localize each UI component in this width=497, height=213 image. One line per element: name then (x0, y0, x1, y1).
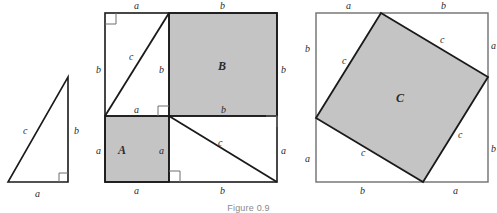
dissection-edge-top-left: a (134, 0, 139, 11)
figure-container: c b a A B a (0, 0, 497, 213)
tilted-edge-left-lower: a (305, 153, 310, 164)
tilted-edge-top-right: b (441, 0, 446, 11)
dissection-diagonal-lower (169, 116, 277, 182)
tilted-edge-top-left: a (346, 0, 351, 11)
dissection-edge-top-right: b (220, 0, 225, 11)
dissection-diagonal-label-lower: c (218, 137, 223, 148)
triangle-panel: c b a (8, 77, 79, 199)
dissection-edge-right-upper: b (281, 64, 286, 75)
dissection-edge-inner-vertical-upper: b (159, 64, 164, 75)
right-angle-mark-dissection-topleft (105, 13, 116, 24)
triangle-label-horizontal: a (35, 188, 40, 199)
tilted-edge-bottom-left: b (360, 185, 365, 196)
tilted-side-label-upper-left: c (342, 55, 347, 66)
region-label-b: B (217, 59, 226, 73)
dissection-edge-right-lower: a (281, 145, 286, 156)
tilted-side-label-lower-right: c (458, 129, 463, 140)
right-angle-mark-dissection-midleft (158, 106, 169, 116)
dissection-edge-inner-vertical-lower: a (159, 145, 164, 156)
tilted-side-label-upper-right: c (440, 34, 445, 45)
triangle-label-vertical: b (74, 125, 79, 136)
figure-caption: Figure 0.9 (0, 203, 497, 213)
tilted-edge-bottom-right: a (453, 185, 458, 196)
tilted-square-panel: C a b b a a b b a c c c c (305, 0, 496, 196)
right-angle-mark-dissection-bottomleft (169, 171, 180, 182)
tilted-edge-left-upper: b (305, 43, 310, 54)
pythagorean-proof-diagram: c b a A B a (0, 0, 497, 213)
dissection-edge-mid-left: a (134, 104, 139, 115)
dissection-edge-left-upper: b (96, 64, 101, 75)
dissection-edge-mid-right: b (221, 104, 226, 115)
triangle-label-hypotenuse: c (23, 125, 28, 136)
right-triangle-shape (8, 77, 68, 182)
right-angle-mark-dissection-midright (266, 116, 277, 127)
tilted-edge-right-upper: a (491, 40, 496, 51)
region-label-c: C (396, 91, 405, 105)
dissection-edge-left-lower: a (96, 145, 101, 156)
dissection-panel: A B a b b a b a a b a b b a c c (96, 0, 286, 196)
dissection-edge-bottom-left: a (134, 185, 139, 196)
dissection-edge-bottom-right: b (220, 185, 225, 196)
tilted-edge-right-lower: b (491, 143, 496, 154)
tilted-side-label-lower-left: c (361, 147, 366, 158)
right-angle-mark-triangle (59, 173, 68, 182)
dissection-diagonal-label-upper: c (129, 51, 134, 62)
region-label-a: A (117, 143, 126, 157)
